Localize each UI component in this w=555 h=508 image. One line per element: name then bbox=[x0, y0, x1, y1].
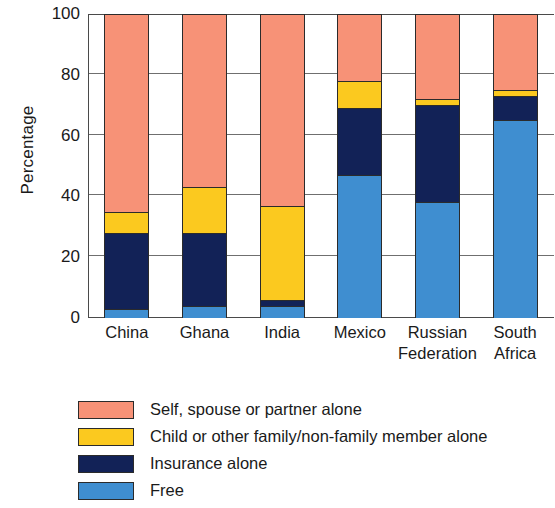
legend-item[interactable]: Child or other family/non-family member … bbox=[78, 423, 548, 450]
x-tick-label-line: South bbox=[470, 322, 555, 343]
bar-segment[interactable] bbox=[104, 212, 149, 233]
bar-segment[interactable] bbox=[415, 105, 460, 202]
y-tick-20: 20 bbox=[30, 248, 80, 265]
bar-stack bbox=[104, 14, 149, 318]
bar-segment[interactable] bbox=[182, 14, 227, 187]
bar-stack bbox=[415, 14, 460, 318]
bar-segment[interactable] bbox=[104, 233, 149, 309]
bar-stack bbox=[337, 14, 382, 318]
x-axis-tick-labels: ChinaGhanaIndiaMexicoRussianFederationSo… bbox=[88, 322, 554, 378]
legend-item[interactable]: Self, spouse or partner alone bbox=[78, 396, 548, 423]
bar-segment[interactable] bbox=[260, 14, 305, 206]
legend-swatch bbox=[78, 428, 134, 446]
bar-stack bbox=[182, 14, 227, 318]
bar-stack bbox=[260, 14, 305, 318]
bar-segment[interactable] bbox=[260, 206, 305, 300]
bar-group[interactable] bbox=[182, 14, 227, 318]
bar-segment[interactable] bbox=[182, 233, 227, 306]
bar-group[interactable] bbox=[415, 14, 460, 318]
legend-swatch bbox=[78, 401, 134, 419]
bar-segment[interactable] bbox=[104, 309, 149, 318]
bar-group[interactable] bbox=[260, 14, 305, 318]
bar-segment[interactable] bbox=[337, 108, 382, 175]
bar-group[interactable] bbox=[104, 14, 149, 318]
bar-group[interactable] bbox=[337, 14, 382, 318]
x-tick-label-line: Russian bbox=[393, 322, 483, 343]
legend-swatch bbox=[78, 482, 134, 500]
legend-label: Insurance alone bbox=[150, 454, 267, 473]
bar-segment[interactable] bbox=[337, 14, 382, 81]
x-tick-label: Mexico bbox=[315, 322, 405, 343]
x-tick-label: RussianFederation bbox=[393, 322, 483, 364]
bar-segment[interactable] bbox=[493, 96, 538, 120]
legend-item[interactable]: Free bbox=[78, 477, 548, 504]
bar-segment[interactable] bbox=[493, 120, 538, 318]
y-axis-title: Percentage bbox=[18, 70, 38, 230]
bar-segment[interactable] bbox=[182, 306, 227, 318]
x-tick-label-line: India bbox=[237, 322, 327, 343]
bar-segment[interactable] bbox=[415, 202, 460, 318]
x-tick-label-line: Mexico bbox=[315, 322, 405, 343]
bars-layer bbox=[88, 14, 554, 318]
bar-group[interactable] bbox=[493, 14, 538, 318]
bar-segment[interactable] bbox=[337, 81, 382, 108]
x-tick-label: China bbox=[82, 322, 172, 343]
y-tick-100: 100 bbox=[30, 5, 80, 22]
x-tick-label-line: Federation bbox=[393, 343, 483, 364]
legend-label: Self, spouse or partner alone bbox=[150, 400, 362, 419]
legend-swatch bbox=[78, 455, 134, 473]
legend-label: Child or other family/non-family member … bbox=[150, 427, 487, 446]
y-tick-0: 0 bbox=[30, 309, 80, 326]
bar-segment[interactable] bbox=[493, 14, 538, 90]
bar-segment[interactable] bbox=[104, 14, 149, 212]
bar-segment[interactable] bbox=[337, 175, 382, 318]
x-tick-label: India bbox=[237, 322, 327, 343]
chart-legend: Self, spouse or partner aloneChild or ot… bbox=[78, 396, 548, 504]
bar-segment[interactable] bbox=[260, 300, 305, 306]
y-tick-80: 80 bbox=[30, 66, 80, 83]
legend-label: Free bbox=[150, 481, 184, 500]
bar-segment[interactable] bbox=[493, 90, 538, 96]
bar-stack bbox=[493, 14, 538, 318]
x-tick-label: Ghana bbox=[160, 322, 250, 343]
bar-segment[interactable] bbox=[182, 187, 227, 233]
x-tick-label-line: Africa bbox=[470, 343, 555, 364]
stacked-bar-chart: Percentage 020406080100 ChinaGhanaIndiaM… bbox=[0, 0, 555, 508]
x-tick-label: SouthAfrica bbox=[470, 322, 555, 364]
bar-segment[interactable] bbox=[260, 306, 305, 318]
x-tick-label-line: Ghana bbox=[160, 322, 250, 343]
bar-segment[interactable] bbox=[415, 14, 460, 99]
legend-item[interactable]: Insurance alone bbox=[78, 450, 548, 477]
bar-segment[interactable] bbox=[415, 99, 460, 105]
y-tick-40: 40 bbox=[30, 187, 80, 204]
y-tick-60: 60 bbox=[30, 127, 80, 144]
x-tick-label-line: China bbox=[82, 322, 172, 343]
